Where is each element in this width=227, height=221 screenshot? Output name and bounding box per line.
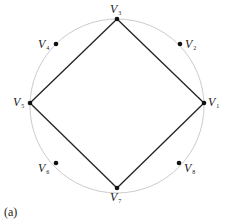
vertex-dot xyxy=(115,17,120,22)
vertex-dot xyxy=(54,42,59,47)
vertex-label: V3 xyxy=(110,2,121,16)
figure-caption: (a) xyxy=(4,205,17,219)
vertex-v8: V8 xyxy=(177,161,196,175)
vertex-label: V6 xyxy=(38,161,49,175)
edge-v1-v7 xyxy=(117,103,204,188)
vertex-dot xyxy=(54,161,59,166)
vertex-dot xyxy=(202,101,207,106)
vertex-v3: V3 xyxy=(110,2,121,21)
vertex-dot xyxy=(178,42,183,47)
vertex-dot xyxy=(28,101,33,106)
vertex-label: V1 xyxy=(208,95,219,109)
vertices: V1V2V3V4V5V6V7V8 xyxy=(13,2,219,204)
vertex-v4: V4 xyxy=(38,37,58,51)
vertex-label: V5 xyxy=(13,95,24,109)
vertex-v7: V7 xyxy=(110,186,121,204)
edge-v7-v5 xyxy=(30,103,117,188)
vertex-label: V8 xyxy=(184,161,195,175)
vertex-v2: V2 xyxy=(178,37,197,51)
vertex-dot xyxy=(177,161,182,166)
cycle-graph-diagram: V1V2V3V4V5V6V7V8 (a) xyxy=(0,0,227,221)
vertex-label: V7 xyxy=(110,190,121,204)
vertex-label: V2 xyxy=(185,37,196,51)
vertex-v5: V5 xyxy=(13,95,32,109)
vertex-label: V4 xyxy=(38,37,49,51)
